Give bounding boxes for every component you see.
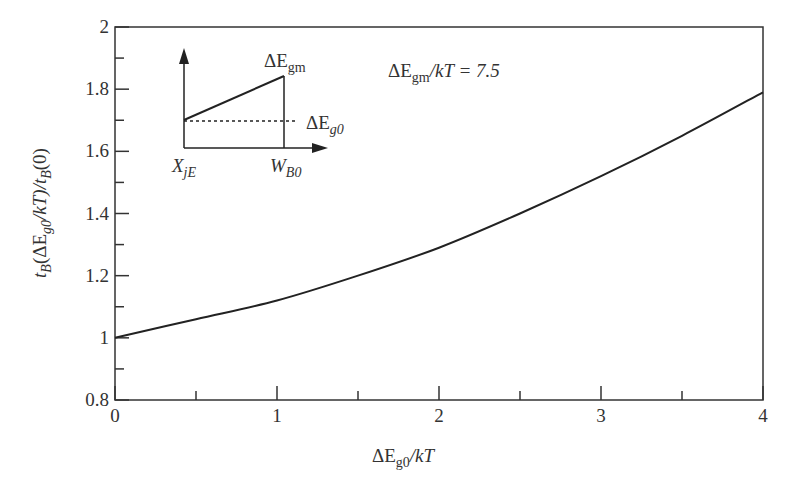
inset-slope-line (184, 76, 284, 120)
x-axis-tick-labels: 01234 (110, 405, 768, 426)
x-axis-title: ΔEg0/kT (372, 445, 436, 470)
x-tick-label: 4 (758, 405, 768, 426)
inset-label-g0: ΔEg0 (306, 112, 344, 137)
x-tick-label: 1 (272, 405, 282, 426)
y-tick-label: 2 (100, 16, 110, 37)
y-axis-tick-labels: 0.811.21.41.61.82 (85, 16, 109, 410)
inset-y-arrow-icon (179, 48, 189, 64)
inset-label-xje: XjE (171, 155, 196, 180)
chart: 0.811.21.41.61.82 01234 ΔEg0/kT tB(ΔEg0/… (0, 0, 805, 483)
y-tick-label: 1.6 (85, 140, 109, 161)
parameter-annotation: ΔEgm/kT = 7.5 (388, 60, 500, 85)
y-tick-label: 1.8 (85, 78, 109, 99)
y-axis-ticks (115, 27, 129, 400)
data-curve (115, 92, 763, 338)
inset-label-gm: ΔEgm (264, 50, 306, 75)
x-axis-ticks (115, 386, 763, 400)
x-tick-label: 3 (596, 405, 606, 426)
y-tick-label: 1 (100, 327, 110, 348)
x-tick-label: 0 (110, 405, 120, 426)
inset-label-wb0: WB0 (270, 155, 301, 180)
inset-schematic: ΔEgm ΔEg0 XjE WB0 (171, 48, 344, 180)
y-tick-label: 1.4 (85, 203, 109, 224)
y-tick-label: 0.8 (85, 389, 109, 410)
inset-x-arrow-icon (312, 143, 328, 153)
x-tick-label: 2 (434, 405, 444, 426)
plot-frame (115, 27, 763, 400)
y-axis-title: tB(ΔEg0/kT)/tB(0) (29, 148, 54, 278)
y-tick-label: 1.2 (85, 265, 109, 286)
